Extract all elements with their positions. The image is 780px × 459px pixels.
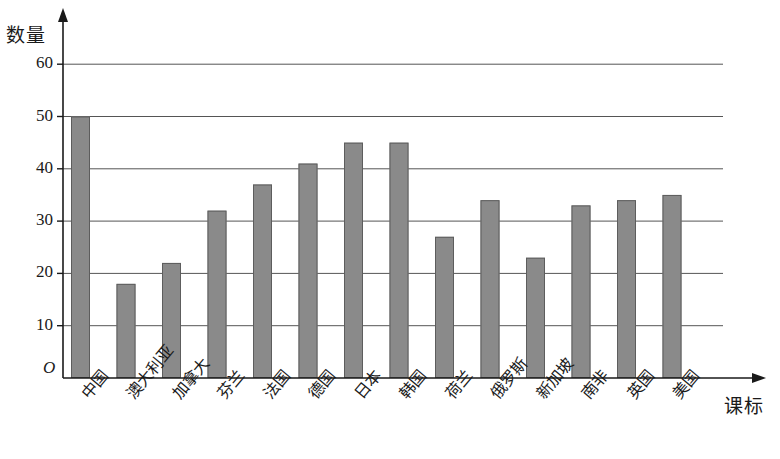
y-tick-label-60: 60 [11,53,53,73]
chart-canvas [0,0,780,459]
bar [572,205,591,378]
bar [344,143,363,378]
bar [435,237,454,378]
y-tick-label-40: 40 [11,158,53,178]
bar [481,200,500,378]
bar [71,117,90,379]
bar [526,258,545,378]
y-tick-label-50: 50 [11,106,53,126]
origin-label: O [43,358,55,378]
bars-group [71,117,682,379]
y-tick-label-20: 20 [11,262,53,282]
y-axis-arrow-icon [58,8,68,22]
bar [617,200,636,378]
y-axis-title: 数量 [6,20,45,47]
bar [663,195,682,378]
bar [117,284,136,378]
y-axis-tick-marks [57,64,63,326]
x-axis-arrow-icon [752,373,766,383]
bar-chart-figure: 数量 课标 O 102030405060 中国澳大利亚加拿大芬兰法国德国日本韩国… [0,0,780,459]
x-axis-title: 课标 [724,391,763,418]
bar [253,184,272,378]
y-tick-label-30: 30 [11,210,53,230]
bar [299,164,318,378]
bar [208,211,227,378]
y-tick-label-10: 10 [11,315,53,335]
bar [390,143,409,378]
